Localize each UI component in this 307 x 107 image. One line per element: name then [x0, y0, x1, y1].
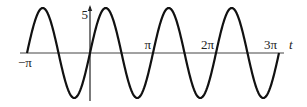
x-tick-label: −π — [18, 55, 32, 70]
t-axis-label: t — [289, 37, 293, 52]
x-tick-label: π — [144, 37, 151, 52]
x-tick-label: 3π — [264, 37, 278, 52]
x-tick-label: 2π — [201, 37, 215, 52]
sine-wave-plot: t −ππ2π3π 5 — [0, 0, 307, 107]
y-axis-arrowhead — [88, 5, 92, 11]
y-tick-label: 5 — [82, 7, 89, 22]
